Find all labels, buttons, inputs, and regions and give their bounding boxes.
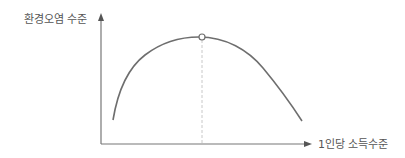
kuznets-curve-chart: 환경오염 수준 1인당 소득수준 xyxy=(0,0,405,158)
x-axis-arrow-icon xyxy=(304,141,312,147)
y-axis-label: 환경오염 수준 xyxy=(24,13,88,26)
x-axis-label: 1인당 소득수준 xyxy=(318,138,389,151)
peak-marker xyxy=(199,34,205,40)
pollution-curve xyxy=(113,37,302,121)
y-axis-arrow-icon xyxy=(98,13,104,21)
